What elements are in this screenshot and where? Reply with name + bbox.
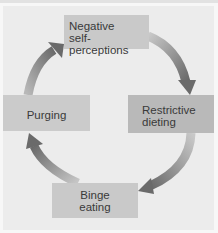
node-label-line: dieting xyxy=(142,116,214,128)
node-binge-eating: Binge eating xyxy=(52,183,138,218)
node-purging: Purging xyxy=(3,95,90,131)
arrow-restrictive-to-binge xyxy=(138,133,191,194)
node-label-line: Purging xyxy=(3,109,90,121)
node-label-line: Negative xyxy=(69,20,149,32)
arrow-binge-to-purging xyxy=(26,133,78,183)
node-label-line: Restrictive xyxy=(142,104,214,116)
node-label-line: self-perceptions xyxy=(69,32,149,56)
node-negative-self-perceptions: Negative self-perceptions xyxy=(64,15,149,49)
node-label-line: eating xyxy=(52,201,138,213)
node-restrictive-dieting: Restrictive dieting xyxy=(128,95,214,133)
arrow-negative-to-restrictive xyxy=(148,36,196,95)
arrow-purging-to-negative xyxy=(28,42,64,95)
node-label-line: Binge xyxy=(52,189,138,201)
